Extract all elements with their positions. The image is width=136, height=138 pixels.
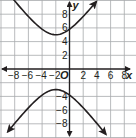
y-tick-label: −8 [56,118,68,129]
x-tick-label: 4 [94,70,100,81]
x-tick-label: −8 [8,70,20,81]
x-tick-label: −4 [35,70,47,81]
y-tick-label: −6 [56,105,68,116]
hyperbola-upper-branch [6,0,96,35]
hyperbola-graph: −8−6−4−224688642−4−6−8Oxy [0,0,136,138]
y-axis-label: y [72,0,80,11]
x-tick-label: −6 [22,70,34,81]
x-axis-label: x [125,69,133,81]
x-tick-label: 6 [108,70,114,81]
y-tick-label: 2 [62,50,68,61]
x-tick-label: 2 [80,70,86,81]
y-tick-label: 4 [62,36,68,47]
origin-label: O [60,69,69,81]
y-tick-label: 8 [62,9,68,20]
